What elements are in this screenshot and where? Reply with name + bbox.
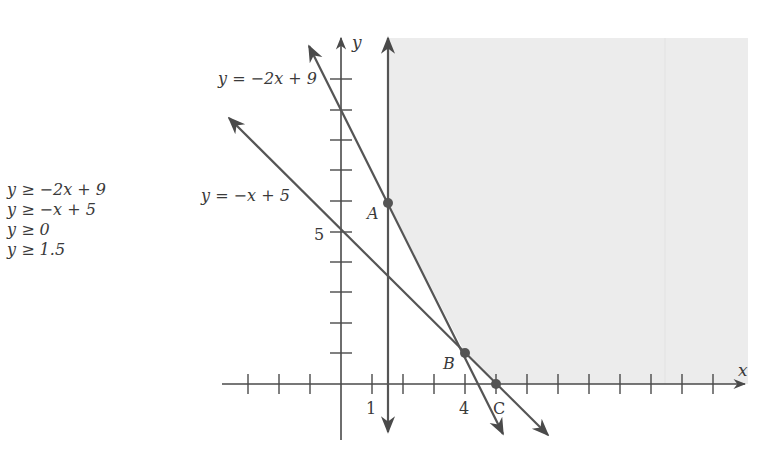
- point-a: [383, 198, 393, 208]
- point-c: [491, 379, 501, 389]
- feasible-region: [388, 38, 748, 384]
- y-axis-label: y: [351, 32, 362, 52]
- tick-label-x-4: 4: [459, 399, 469, 418]
- line-label-neg2x-plus-9: y = −2x + 9: [217, 69, 317, 88]
- x-axis-label: x: [738, 360, 748, 380]
- point-b: [460, 348, 470, 358]
- point-label-b: B: [442, 354, 455, 373]
- tick-label-y-5: 5: [314, 225, 324, 244]
- point-label-c: C: [493, 399, 505, 418]
- line-label-negx-plus-5: y = −x + 5: [200, 186, 290, 205]
- coordinate-graph: y x 1 4 5 y = −2x + 9 y = −x + 5 A B C: [0, 0, 766, 466]
- point-label-a: A: [365, 204, 379, 223]
- tick-label-x-1: 1: [366, 399, 376, 418]
